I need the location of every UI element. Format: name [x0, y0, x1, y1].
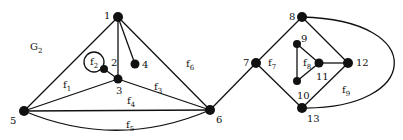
- vertex-10: [293, 77, 301, 85]
- edge-7-8: [256, 17, 302, 63]
- vertex-1: [113, 12, 123, 22]
- planar-graph-diagram: 12345678910111213f1f2f3f4f5f6f7f8f9G2: [0, 0, 403, 140]
- vertex-label-2: 2: [111, 57, 117, 68]
- face-label-f8: f8: [303, 57, 311, 71]
- vertex-label-9: 9: [301, 33, 307, 44]
- vertex-11: [315, 59, 324, 68]
- vertex-label-11: 11: [316, 71, 329, 82]
- vertex-label-10: 10: [297, 90, 310, 101]
- vertex-2: [100, 65, 108, 73]
- face-label-f5: f5: [126, 119, 134, 133]
- vertex-8: [297, 12, 307, 22]
- face-label-f9: f9: [342, 84, 350, 98]
- graph-title-label: G2: [30, 41, 42, 55]
- vertex-4: [131, 60, 140, 69]
- edge-3-5: [24, 79, 118, 111]
- vertex-label-7: 7: [243, 57, 249, 68]
- vertex-label-6: 6: [216, 114, 222, 125]
- edge-6-7: [210, 63, 256, 110]
- vertex-7: [251, 58, 261, 68]
- vertex-label-1: 1: [104, 10, 110, 21]
- curved-edge-5-6: [24, 110, 210, 130]
- edge-8-12: [302, 17, 348, 63]
- face-label-f6: f6: [186, 58, 195, 72]
- vertex-5: [19, 106, 29, 116]
- vertex-9: [293, 40, 301, 48]
- edge-7-13: [256, 63, 302, 108]
- face-label-f7: f7: [268, 57, 276, 71]
- vertex-label-13: 13: [307, 113, 320, 124]
- vertex-label-12: 12: [356, 57, 369, 68]
- edge-1-4: [118, 17, 135, 64]
- face-label-f2: f2: [90, 56, 98, 70]
- edge-5-6: [24, 110, 210, 111]
- face-label-f4: f4: [127, 95, 136, 109]
- vertex-label-5: 5: [10, 115, 16, 126]
- face-label-f3: f3: [154, 81, 162, 95]
- vertex-6: [205, 105, 215, 115]
- vertex-12: [343, 58, 353, 68]
- vertex-13: [297, 103, 307, 113]
- vertex-label-3: 3: [116, 85, 122, 96]
- vertex-label-8: 8: [289, 11, 295, 22]
- face-label-f1: f1: [63, 79, 71, 93]
- vertex-3: [114, 75, 123, 84]
- vertex-label-4: 4: [142, 59, 148, 70]
